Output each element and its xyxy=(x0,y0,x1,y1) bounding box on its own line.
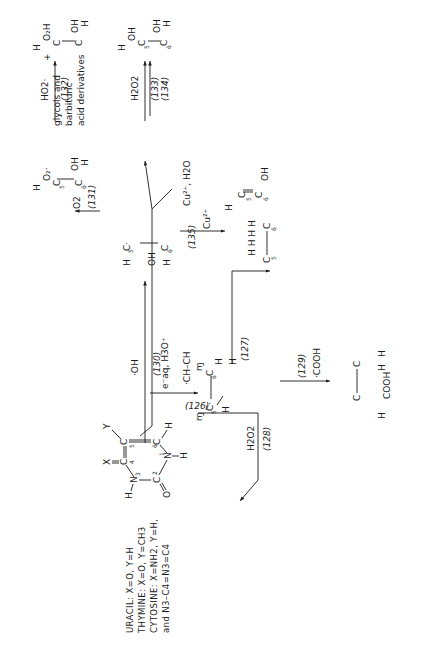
svg-text:OH: OH xyxy=(70,157,80,171)
reaction-135: (135) Cu²⁺ xyxy=(180,208,225,249)
svg-text:C: C xyxy=(205,370,215,376)
svg-text:OH: OH xyxy=(70,19,80,33)
svg-text:glycols and: glycols and xyxy=(52,75,62,126)
legend: URACIL: X=O, Y=H THYMINE: X=O, Y=CH3 CYT… xyxy=(125,519,171,634)
svg-text:6: 6 xyxy=(262,197,269,201)
svg-text:·OH: ·OH xyxy=(130,359,140,376)
product-5yl-radical: C· 5 H C 6 H H ɱ ɱ xyxy=(194,358,238,421)
svg-text:barbituric: barbituric xyxy=(64,82,74,126)
product-glycol: H OH C 5 C 6 OH H xyxy=(117,19,172,51)
svg-text:H: H xyxy=(117,44,127,51)
svg-text:C: C xyxy=(152,439,162,445)
svg-text:(127): (127) xyxy=(240,337,250,361)
reaction-scheme: URACIL: X=O, Y=H THYMINE: X=O, Y=CH3 CYT… xyxy=(0,0,429,661)
pyrimidine-ring: N 3 C 4 C 5 C 6 N 1 C 2 X Y xyxy=(102,422,189,499)
svg-text:(134): (134) xyxy=(160,77,170,101)
svg-text:C: C xyxy=(74,40,84,46)
svg-text:H: H xyxy=(377,364,387,371)
svg-text:H H H H: H H H H xyxy=(247,220,257,256)
svg-text:H: H xyxy=(221,406,231,413)
svg-text:C: C xyxy=(152,477,162,483)
legend-thymine: THYMINE: X=O, Y=CH3 xyxy=(137,526,147,634)
product-carboxy: C C H COOH H H xyxy=(352,350,392,419)
svg-text:1: 1 xyxy=(158,452,165,456)
svg-text:Cu²⁺, H2O: Cu²⁺, H2O xyxy=(182,160,192,206)
svg-text:C: C xyxy=(52,180,62,186)
svg-text:HO2·: HO2· xyxy=(40,79,50,101)
svg-text:C: C xyxy=(137,40,147,46)
svg-text:5: 5 xyxy=(270,256,277,260)
svg-text:C: C xyxy=(237,192,247,198)
svg-text:Y: Y xyxy=(102,423,112,430)
reaction-133: H2O2 (133) xyxy=(130,61,160,121)
svg-text:ɱ: ɱ xyxy=(194,412,204,421)
reaction-127: (127) xyxy=(232,271,270,364)
reaction-129: (129) ·COOH xyxy=(280,348,330,381)
byproducts-label: glycols and barbituric acid derivatives xyxy=(52,54,86,126)
svg-text:H: H xyxy=(80,20,90,27)
svg-text:H2O2: H2O2 xyxy=(246,426,256,451)
legend-cytosine: CYTOSINE: X=NH2, Y=H, xyxy=(149,519,159,633)
svg-text:6: 6 xyxy=(151,444,158,448)
svg-text:H: H xyxy=(162,259,172,266)
svg-text:(128): (128) xyxy=(262,427,272,451)
legend-note: and N3–C4=N3=C4 xyxy=(161,544,171,633)
svg-text:OH: OH xyxy=(127,27,137,41)
product-hydroperoxide: H O₂H C C OH H xyxy=(32,19,90,51)
svg-text:H: H xyxy=(179,452,189,459)
svg-text:H2O2: H2O2 xyxy=(130,76,140,101)
svg-text:3: 3 xyxy=(134,472,141,476)
reaction-130: ·OH (130) xyxy=(130,281,162,443)
svg-text:(135): (135) xyxy=(187,225,197,249)
svg-text:5: 5 xyxy=(127,249,134,253)
svg-text:C: C xyxy=(254,192,264,198)
svg-text:5: 5 xyxy=(58,185,65,189)
svg-text:C: C xyxy=(119,439,129,445)
svg-text:O₂H: O₂H xyxy=(42,24,52,41)
svg-text:H: H xyxy=(124,492,134,499)
svg-text:2: 2 xyxy=(151,471,158,475)
svg-text:C: C xyxy=(352,361,362,367)
svg-text:H: H xyxy=(162,20,172,27)
copper-water-path: Cu²⁺, H2O xyxy=(140,160,192,436)
svg-text:5: 5 xyxy=(128,444,135,448)
svg-text:6: 6 xyxy=(270,227,277,231)
svg-text:H: H xyxy=(377,412,387,419)
svg-text:OH: OH xyxy=(152,19,162,33)
svg-text:(129): (129) xyxy=(297,354,307,378)
svg-text:acid derivatives: acid derivatives xyxy=(76,54,86,126)
product-peroxyl-radical: H O₂· C 5 C 6 OH H xyxy=(32,157,90,191)
plus-sign: + xyxy=(42,53,52,61)
svg-text:ɱ: ɱ xyxy=(194,362,204,371)
reaction-128: H2O2 (128) xyxy=(198,413,272,501)
svg-text:C·: C· xyxy=(205,402,215,411)
product-hydroxy-radical: H OH C· 5 C 6 H xyxy=(122,242,173,266)
svg-text:Cu²⁺: Cu²⁺ xyxy=(202,208,212,229)
svg-text:X: X xyxy=(102,459,112,465)
svg-text:H: H xyxy=(377,350,387,357)
svg-text:5: 5 xyxy=(245,197,252,201)
svg-text:H: H xyxy=(122,259,132,266)
svg-text:H: H xyxy=(228,358,238,365)
svg-text:C: C xyxy=(159,40,169,46)
svg-text:H: H xyxy=(80,159,90,166)
svg-text:(130): (130) xyxy=(152,352,162,376)
svg-text:O2: O2 xyxy=(72,196,82,209)
svg-text:C: C xyxy=(74,180,84,186)
svg-text:O: O xyxy=(162,491,172,498)
product-enol: H C 5 C 6 OH xyxy=(224,167,270,211)
svg-text:COOH: COOH xyxy=(382,372,392,399)
svg-text:4: 4 xyxy=(128,460,135,464)
svg-text:·COOH: ·COOH xyxy=(312,348,322,378)
svg-text:O₂·: O₂· xyxy=(42,167,52,181)
svg-text:H: H xyxy=(32,44,42,51)
svg-text:C: C xyxy=(52,40,62,46)
svg-text:6: 6 xyxy=(210,375,217,379)
svg-text:H: H xyxy=(224,204,234,211)
dimer-label: ·CH–CH xyxy=(182,352,192,385)
svg-text:H: H xyxy=(214,358,224,365)
product-dihydro: H H H H C 5 C 6 xyxy=(247,220,277,263)
svg-text:H: H xyxy=(32,184,42,191)
svg-text:6: 6 xyxy=(166,249,173,253)
svg-text:5: 5 xyxy=(143,45,150,49)
